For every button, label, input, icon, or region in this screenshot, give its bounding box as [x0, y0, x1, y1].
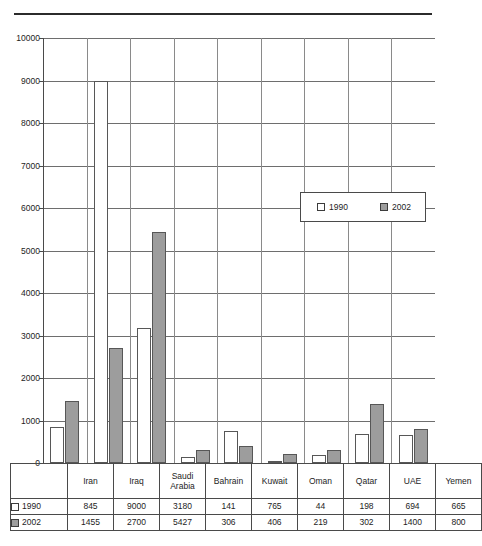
y-axis-tick-label: 2000 — [0, 374, 40, 383]
bar-kuwait-1990 — [224, 431, 238, 464]
y-axis-tick-label: 4000 — [0, 289, 40, 298]
bar-uae-1990 — [355, 434, 369, 463]
bar-uae-2002 — [370, 404, 384, 464]
chart-legend: 1990 2002 — [300, 192, 426, 222]
bar-bahrain-2002 — [196, 450, 210, 463]
table-column-header: Iraq — [114, 464, 160, 499]
data-table-head: IranIraqSaudi ArabiaBahrainKuwaitOmanQat… — [11, 464, 482, 499]
category-separator — [87, 38, 88, 463]
bar-group — [217, 38, 261, 463]
table-value-cell: 5427 — [160, 515, 206, 531]
y-axis-tick-label: 5000 — [0, 247, 40, 256]
bar-yemen-2002 — [414, 429, 428, 463]
table-header-row: IranIraqSaudi ArabiaBahrainKuwaitOmanQat… — [11, 464, 482, 499]
bar-saudi-arabia-1990 — [137, 328, 151, 463]
table-column-header: Oman — [298, 464, 344, 499]
table-column-header: Bahrain — [206, 464, 252, 499]
bar-series-area — [43, 38, 435, 463]
legend-label-1990: 1990 — [329, 203, 348, 212]
table-column-header: Saudi Arabia — [160, 464, 206, 499]
table-value-cell: 141 — [206, 499, 252, 515]
bar-oman-1990 — [268, 461, 282, 463]
y-axis-tick-label: 10000 — [0, 34, 40, 43]
bar-qatar-2002 — [327, 450, 341, 463]
y-axis-tick-label: 8000 — [0, 119, 40, 128]
table-value-cell: 665 — [436, 499, 482, 515]
table-value-cell: 219 — [298, 515, 344, 531]
category-separator — [174, 38, 175, 463]
bar-group — [43, 38, 87, 463]
category-separator — [261, 38, 262, 463]
data-table: IranIraqSaudi ArabiaBahrainKuwaitOmanQat… — [10, 463, 482, 531]
table-column-header: Kuwait — [252, 464, 298, 499]
category-separator — [348, 38, 349, 463]
bar-group — [391, 38, 435, 463]
table-value-cell: 3180 — [160, 499, 206, 515]
white-square-icon — [11, 503, 19, 511]
bar-iran-2002 — [65, 401, 79, 463]
table-value-cell: 406 — [252, 515, 298, 531]
category-separator — [217, 38, 218, 463]
table-value-cell: 1455 — [68, 515, 114, 531]
bar-yemen-1990 — [399, 435, 413, 463]
bar-group — [348, 38, 392, 463]
legend-row: 1990 2002 — [301, 193, 427, 221]
table-value-cell: 765 — [252, 499, 298, 515]
y-axis-labels: 1000090008000700060005000400030002000100… — [0, 0, 40, 470]
bar-iraq-2002 — [109, 348, 123, 463]
table-series-cell: 2002 — [11, 515, 68, 531]
bar-iran-1990 — [50, 427, 64, 463]
table-value-cell: 44 — [298, 499, 344, 515]
y-axis-tick-label: 6000 — [0, 204, 40, 213]
table-row: 20021455270054273064062193021400800 — [11, 515, 482, 531]
white-square-icon — [317, 203, 325, 211]
gray-square-icon — [380, 203, 388, 211]
bar-chart-plot: 1000090008000700060005000400030002000100… — [0, 0, 438, 470]
bar-qatar-1990 — [312, 455, 326, 463]
legend-item-1990: 1990 — [317, 203, 348, 212]
table-value-cell: 694 — [390, 499, 436, 515]
legend-item-2002: 2002 — [380, 203, 411, 212]
category-separator — [391, 38, 392, 463]
bar-saudi-arabia-2002 — [152, 232, 166, 463]
bar-group — [304, 38, 348, 463]
bar-iraq-1990 — [94, 81, 108, 464]
legend-label-2002: 2002 — [392, 203, 411, 212]
table-column-header: UAE — [390, 464, 436, 499]
table-row: 19908459000318014176544198694665 — [11, 499, 482, 515]
y-axis-tick-label: 9000 — [0, 77, 40, 86]
gray-square-icon — [11, 519, 19, 527]
table-series-cell: 1990 — [11, 499, 68, 515]
bar-group — [87, 38, 131, 463]
table-value-cell: 198 — [344, 499, 390, 515]
category-separator — [304, 38, 305, 463]
bar-group — [174, 38, 218, 463]
table-column-header: Iran — [68, 464, 114, 499]
data-table-wrap: IranIraqSaudi ArabiaBahrainKuwaitOmanQat… — [10, 463, 435, 531]
y-axis-tick-label: 7000 — [0, 162, 40, 171]
table-column-header: Yemen — [436, 464, 482, 499]
bar-group — [130, 38, 174, 463]
bar-kuwait-2002 — [239, 446, 253, 463]
category-separator — [130, 38, 131, 463]
y-axis-tick-label: 1000 — [0, 417, 40, 426]
table-value-cell: 1400 — [390, 515, 436, 531]
table-value-cell: 2700 — [114, 515, 160, 531]
table-column-header: Qatar — [344, 464, 390, 499]
bar-group — [261, 38, 305, 463]
table-value-cell: 306 — [206, 515, 252, 531]
data-table-body: 1990845900031801417654419869466520021455… — [11, 499, 482, 531]
table-value-cell: 9000 — [114, 499, 160, 515]
table-series-label: 1990 — [22, 499, 41, 514]
table-series-label: 2002 — [22, 515, 41, 530]
table-value-cell: 302 — [344, 515, 390, 531]
table-value-cell: 845 — [68, 499, 114, 515]
table-value-cell: 800 — [436, 515, 482, 531]
bar-oman-2002 — [283, 454, 297, 463]
bar-bahrain-1990 — [181, 457, 195, 463]
table-corner-cell — [11, 464, 68, 499]
y-axis-tick-label: 3000 — [0, 332, 40, 341]
